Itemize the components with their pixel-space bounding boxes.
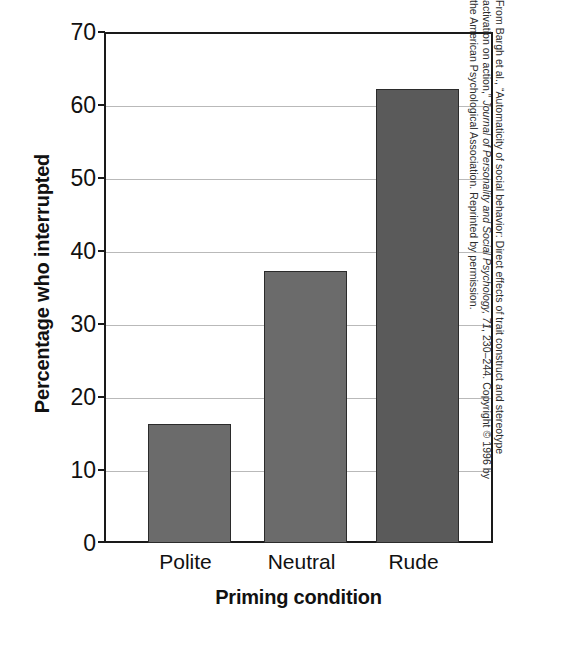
credit-line-2: activation on action,” Journal of Person… [480,0,493,664]
y-tick-label-0: 0 [38,532,96,555]
bar-neutral [264,271,347,543]
y-axis-title: Percentage who interrupted [31,74,54,494]
y-tick-label-70: 70 [38,21,96,44]
y-tick-label-60: 60 [38,94,96,117]
y-tick-label-30: 30 [38,313,96,336]
bar-polite [148,424,231,543]
y-tick-label-40: 40 [38,240,96,263]
credit-line-2-c: , 230–244. Copyright © 1996 by [481,329,493,479]
y-tick-label-50: 50 [38,167,96,190]
source-credit: From Bargh et al., “Automaticity of soci… [428,0,506,664]
credit-line-2-a: activation on action,” [481,0,493,100]
credit-line-1: From Bargh et al., “Automaticity of soci… [493,0,506,664]
y-tick-label-20: 20 [38,386,96,409]
credit-line-3: the American Psychological Association. … [466,0,479,664]
credit-journal-name: Journal of Personality and Social Psycho… [481,100,493,329]
y-tick-label-10: 10 [38,459,96,482]
bar-chart-figure: Percentage who interrupted 70 60 50 40 3… [0,0,587,664]
